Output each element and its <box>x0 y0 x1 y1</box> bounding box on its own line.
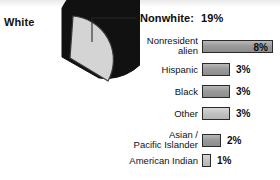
bar-row: Other3% <box>96 107 280 120</box>
bar-fill <box>202 107 230 120</box>
bar-value: 8% <box>254 41 268 54</box>
bar-row: Black3% <box>96 85 280 98</box>
bar-value: 3% <box>236 64 250 75</box>
bar-row-label: Asian / Pacific Islander <box>96 130 202 150</box>
bar-row: Hispanic3% <box>96 63 280 76</box>
bar-track <box>202 85 230 98</box>
bar-track <box>202 134 221 147</box>
bar-row-label: Nonresident alien <box>96 36 202 56</box>
bar-row-label: Black <box>96 87 202 97</box>
bar-row: American Indian1% <box>96 154 280 167</box>
bar-track <box>202 107 230 120</box>
bar-row: Nonresident alien8% <box>96 36 280 56</box>
callout-label: Nonwhite: <box>140 12 194 24</box>
bar-row-label: Other <box>96 109 202 119</box>
bar-row-label: American Indian <box>96 156 202 166</box>
pie-label-white: White <box>4 16 34 28</box>
bar-fill <box>202 63 230 76</box>
bar-fill <box>202 154 211 167</box>
bar-value: 2% <box>227 135 241 146</box>
bar-fill: 8% <box>202 40 273 53</box>
bar-fill <box>202 134 221 147</box>
bar-track <box>202 154 211 167</box>
bar-row-label: Hispanic <box>96 65 202 75</box>
pie-value-white: 81% <box>34 36 57 50</box>
bar-fill <box>202 85 230 98</box>
callout-title: Nonwhite:19% <box>140 12 223 24</box>
bar-track: 8% <box>202 40 273 53</box>
bar-value: 3% <box>236 108 250 119</box>
callout-value: 19% <box>201 12 223 24</box>
bar-row: Asian / Pacific Islander2% <box>96 130 280 150</box>
bar-value: 3% <box>236 86 250 97</box>
bar-value: 1% <box>217 155 231 166</box>
bar-track <box>202 63 230 76</box>
